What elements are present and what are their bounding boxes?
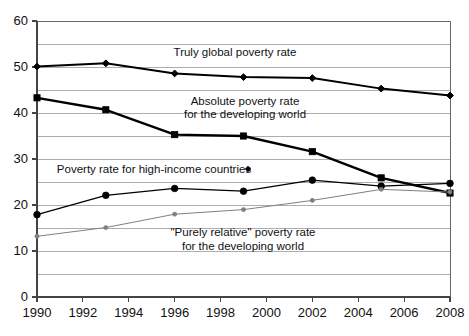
x-tick-label: 1994 (107, 305, 151, 320)
x-tick-label: 1992 (61, 305, 105, 320)
annotation-purely-relative-line1: "Purely relative" poverty rate (171, 226, 316, 239)
y-tick-label: 0 (0, 289, 28, 304)
x-tick-label: 1996 (153, 305, 197, 320)
x-tick-label: 2002 (290, 305, 334, 320)
y-axis-ticks (32, 21, 37, 297)
x-tick-label: 2004 (336, 305, 380, 320)
y-tick-label: 20 (0, 197, 28, 212)
y-tick-label: 40 (0, 105, 28, 120)
y-tick-label: 30 (0, 151, 28, 166)
annotation-truly-global: Truly global poverty rate (174, 46, 297, 59)
x-tick-label: 1990 (15, 305, 59, 320)
data-series-layer (34, 60, 454, 238)
x-axis-ticks (37, 297, 450, 302)
annotation-high-income: Poverty rate for high-income countries (57, 163, 251, 176)
y-tick-label: 10 (0, 243, 28, 258)
annotation-absolute-line2: for the developing world (184, 108, 306, 121)
x-tick-label: 2008 (428, 305, 469, 320)
x-tick-label: 1998 (199, 305, 243, 320)
x-tick-label: 2006 (382, 305, 426, 320)
x-tick-label: 2000 (244, 305, 288, 320)
y-tick-label: 50 (0, 59, 28, 74)
y-tick-label: 60 (0, 13, 28, 28)
annotation-absolute-line1: Absolute poverty rate (191, 95, 300, 108)
series-0 (34, 60, 454, 99)
annotation-purely-relative-line2: for the developing world (182, 240, 304, 253)
gridlines (37, 21, 450, 297)
